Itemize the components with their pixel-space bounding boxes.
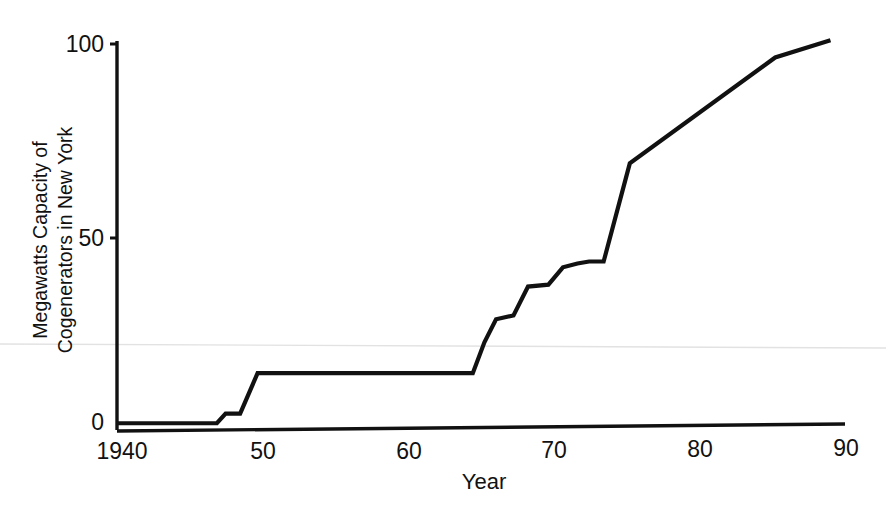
data-series-line [118,40,830,423]
x-tick-label-70: 70 [541,437,567,463]
chart-figure: 100 50 0 1940 50 60 70 80 90 Year Megawa… [0,0,886,508]
line-chart-canvas: 100 50 0 1940 50 60 70 80 90 Year Megawa… [0,0,886,508]
x-tick-label-90: 90 [833,435,859,461]
x-axis-line [117,424,845,431]
y-axis-title-line1: Megawatts Capacity of [29,141,51,339]
x-tick-label-80: 80 [687,436,713,462]
y-tick-label-0: 0 [91,409,104,435]
x-axis-title: Year [462,469,506,494]
x-tick-label-60: 60 [396,438,422,464]
y-axis-title-line2: Cogenerators in New York [54,126,76,353]
y-tick-label-50: 50 [78,225,104,251]
x-tick-label-1940: 1940 [96,438,147,464]
scan-artifact-line [0,344,886,348]
y-tick-label-100: 100 [66,31,104,57]
x-tick-label-50: 50 [250,438,276,464]
